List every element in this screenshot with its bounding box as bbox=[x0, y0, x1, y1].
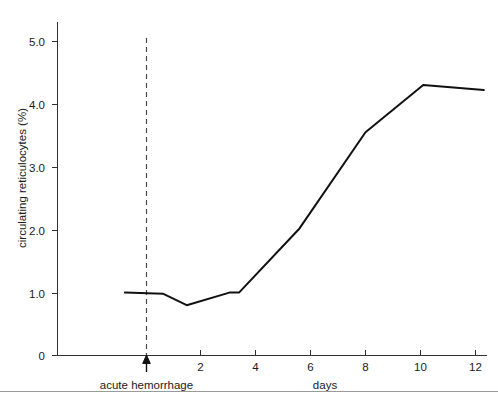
acute-hemorrhage-label: acute hemorrhage bbox=[100, 379, 193, 391]
chart-background bbox=[0, 0, 498, 399]
x-tick-label-4: 4 bbox=[252, 361, 259, 373]
x-tick-label-8: 8 bbox=[362, 361, 368, 373]
x-axis-title: days bbox=[313, 379, 338, 391]
x-tick-label-6: 6 bbox=[307, 361, 313, 373]
y-tick-label-0: 0 bbox=[39, 350, 45, 362]
x-tick-label-10: 10 bbox=[414, 361, 427, 373]
x-tick-label-2: 2 bbox=[197, 361, 203, 373]
y-tick-label-3: 3.0 bbox=[29, 162, 45, 174]
figure-container: 5.0 4.0 3.0 2.0 1.0 0 2 4 6 8 10 12 circ… bbox=[0, 0, 498, 399]
y-tick-label-2: 2.0 bbox=[29, 225, 45, 237]
reticulocyte-line-chart: 5.0 4.0 3.0 2.0 1.0 0 2 4 6 8 10 12 circ… bbox=[0, 0, 498, 399]
y-tick-label-5: 5.0 bbox=[29, 36, 45, 48]
y-tick-label-1: 1.0 bbox=[29, 288, 45, 300]
y-axis-title: circulating reticulocytes (%) bbox=[16, 108, 28, 248]
x-tick-label-12: 12 bbox=[469, 361, 482, 373]
y-tick-label-4: 4.0 bbox=[29, 99, 45, 111]
